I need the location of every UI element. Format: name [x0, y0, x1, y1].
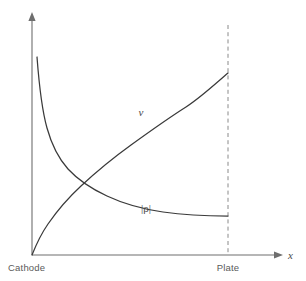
plate-axis-label: Plate	[217, 262, 240, 273]
velocity-curve-label: v	[139, 106, 144, 118]
label-layer: Cathode Plate x v |ρ|	[0, 0, 306, 281]
cathode-axis-label: Cathode	[8, 262, 45, 273]
charge-density-curve-label: |ρ|	[141, 202, 151, 214]
x-axis-variable-label: x	[287, 249, 293, 261]
physics-diagram-figure: Cathode Plate x v |ρ|	[0, 0, 306, 281]
